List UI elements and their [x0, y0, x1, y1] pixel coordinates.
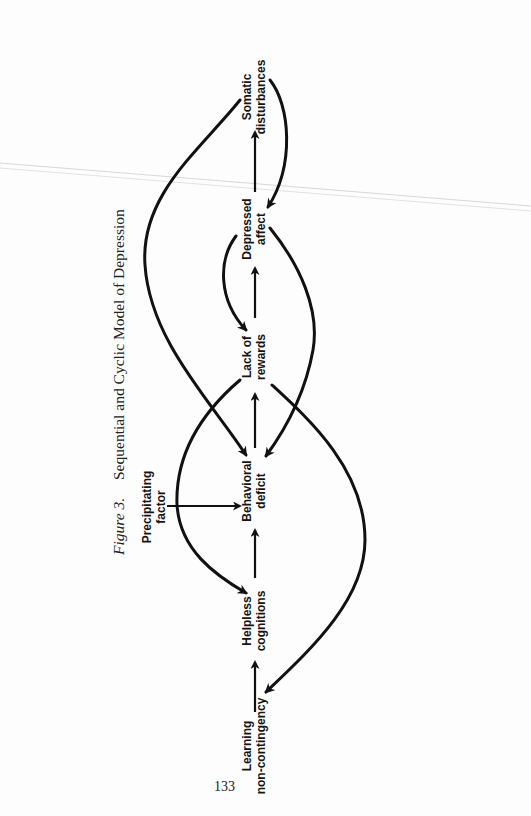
node-label-line1: Learning — [240, 676, 254, 816]
node-label-line2: cognitions — [254, 551, 268, 691]
figure-caption: Figure 3. Sequential and Cyclic Model of… — [110, 135, 128, 555]
node-label-line1: Somatic — [240, 27, 254, 167]
figure-title: Sequential and Cyclic Model of Depressio… — [110, 209, 127, 480]
node-label-line2: factor — [154, 437, 168, 577]
node-label-line1: Depressed — [240, 159, 254, 299]
book-page: Somatic disturbances Depressed affect La… — [0, 0, 531, 816]
curve-somatic-to-behavioral — [145, 100, 246, 455]
curve-somatic-to-depressed — [268, 80, 287, 207]
node-label-line1: Behavioral — [240, 421, 254, 561]
node-label-line1: Helpless — [240, 551, 254, 691]
node-behavioral-deficit: Behavioral deficit — [240, 421, 268, 561]
node-depressed-affect: Depressed affect — [240, 159, 268, 299]
figure-number: Figure 3. — [110, 498, 127, 555]
node-label-line1: Lack of — [240, 287, 254, 427]
node-somatic-disturbances: Somatic disturbances — [240, 27, 268, 167]
node-label-line2: affect — [254, 159, 268, 299]
node-label-line2: disturbances — [254, 27, 268, 167]
node-lack-of-rewards: Lack of rewards — [240, 287, 268, 427]
node-label-line2: deficit — [254, 421, 268, 561]
curve-lack-to-helpless — [177, 380, 246, 593]
node-label-line1: Precipitating — [140, 437, 154, 577]
node-label-line2: rewards — [254, 287, 268, 427]
page-number: 133 — [214, 779, 235, 795]
node-learning-non-contingency: Learning non-contingency — [240, 676, 268, 816]
node-label-line2: non-contingency — [254, 676, 268, 816]
node-precipitating-factor: Precipitating factor — [140, 437, 168, 577]
node-helpless-cognitions: Helpless cognitions — [240, 551, 268, 691]
curve-depressed-to-behavioral — [266, 228, 314, 456]
